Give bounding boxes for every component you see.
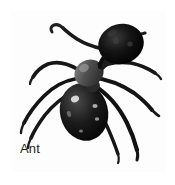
leg-hind-right-tarsus [106, 124, 119, 163]
photo-caption: Ant [20, 142, 40, 155]
photo-inner-background: Ant [11, 11, 166, 172]
abdomen [54, 78, 115, 146]
antenna-left [63, 28, 103, 49]
compound-eye-left [113, 38, 119, 44]
compound-eye-right [127, 41, 132, 46]
ant-photo-card: Ant [11, 11, 166, 172]
head [93, 18, 148, 69]
